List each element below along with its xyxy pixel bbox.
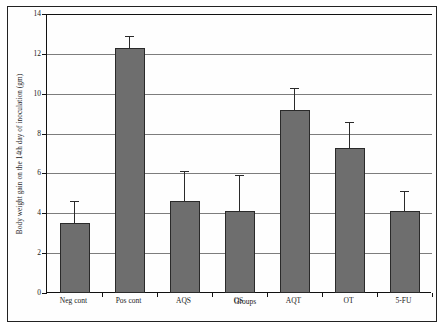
y-tick-label-6: 6 [37, 170, 41, 178]
error-bar-cap [235, 175, 244, 176]
bar-group [225, 14, 255, 293]
bar-group [60, 14, 90, 293]
bar [280, 110, 310, 293]
bar [170, 201, 200, 293]
error-bar [404, 191, 405, 211]
chart-figure: Body weight gain on the 14th day of inoc… [0, 0, 444, 329]
x-label-aqs: AQS [176, 297, 191, 305]
bar [335, 148, 365, 293]
bar-series [47, 14, 432, 293]
bar-group [115, 14, 145, 293]
bar [225, 211, 255, 293]
bar-group [390, 14, 420, 293]
error-bar-cap [400, 191, 409, 192]
x-tick [432, 293, 433, 297]
error-bar-cap [180, 171, 189, 172]
error-bar-cap [70, 201, 79, 202]
bar [390, 211, 420, 293]
x-axis-labels: Neg contPos contAQSOSAQTOT5-FUGroups [46, 297, 431, 311]
error-bar-cap [290, 88, 299, 89]
bar [115, 48, 145, 293]
x-label-pos-cont: Pos cont [116, 297, 142, 305]
x-axis-title: Groups [234, 298, 256, 306]
y-tick-label-14: 14 [34, 10, 42, 18]
y-tick-0 [42, 293, 47, 294]
error-bar-cap [125, 36, 134, 37]
error-bar [349, 122, 350, 148]
x-label-aqt: AQT [286, 297, 301, 305]
x-label-neg-cont: Neg cont [60, 297, 87, 305]
y-tick-label-4: 4 [37, 210, 41, 218]
x-label-5-fu: 5-FU [396, 297, 412, 305]
y-axis-title: Body weight gain on the 14th day of inoc… [14, 14, 26, 293]
y-tick-label-0: 0 [37, 289, 41, 297]
bar [60, 223, 90, 293]
error-bar [239, 175, 240, 211]
y-tick-label-8: 8 [37, 130, 41, 138]
bar-group [335, 14, 365, 293]
error-bar-cap [345, 122, 354, 123]
y-axis-title-text: Body weight gain on the 14th day of inoc… [16, 73, 24, 233]
error-bar [74, 201, 75, 223]
y-tick-label-10: 10 [34, 90, 42, 98]
error-bar [129, 36, 130, 48]
bar-group [280, 14, 310, 293]
plot-area: 02468101214 [46, 14, 431, 293]
y-tick-label-2: 2 [37, 249, 41, 257]
bar-group [170, 14, 200, 293]
x-label-ot: OT [344, 297, 354, 305]
error-bar [184, 171, 185, 201]
y-tick-label-12: 12 [34, 50, 42, 58]
error-bar [294, 88, 295, 110]
